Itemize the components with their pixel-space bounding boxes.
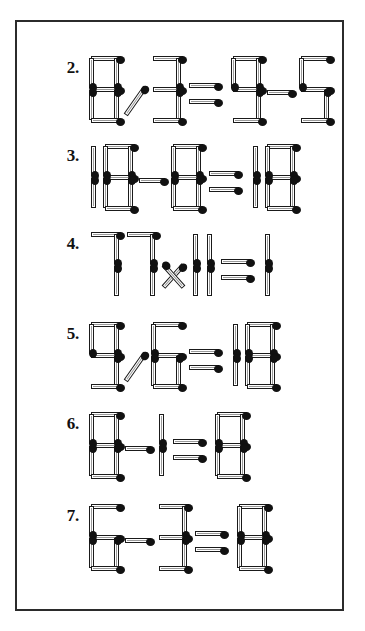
- matchstick-head-icon: [198, 206, 207, 214]
- matchstick-br: [182, 538, 187, 568]
- matchstick-br: [233, 356, 238, 386]
- matchstick-equation: 6-3⇒86 - 3 ⇒ 8: [89, 492, 273, 584]
- matchstick-tl: [215, 414, 220, 444]
- matchstick-head-icon: [139, 84, 151, 96]
- operator-glyph: [187, 56, 227, 121]
- matchstick-br: [262, 538, 267, 568]
- arrow-bar-matchstick: [195, 531, 225, 536]
- matchstick-operator-minus: -: [139, 132, 171, 224]
- matchstick-bottom: [91, 118, 121, 123]
- matchstick-head-icon: [176, 88, 184, 97]
- matchstick-bottom: [239, 566, 269, 571]
- digit-segments: [89, 232, 119, 297]
- matchstick-top: [91, 504, 121, 509]
- matchstick-head-icon: [116, 566, 125, 574]
- matchstick-head-icon: [272, 322, 281, 330]
- matchstick-tl: [89, 506, 94, 536]
- matchstick-bl: [245, 356, 250, 386]
- matchstick-head-icon: [265, 264, 273, 273]
- operator-glyph: [125, 322, 151, 387]
- matchstick-bl: [237, 538, 242, 568]
- digit-segments: [245, 322, 275, 387]
- matchstick-head-icon: [116, 232, 125, 240]
- matchstick-bl: [89, 446, 94, 476]
- digit-value: 8: [89, 44, 90, 45]
- matchstick-head-icon: [89, 88, 97, 97]
- puzzle-number-label: 4.: [45, 234, 79, 254]
- matchstick-operator-minus: -: [125, 492, 157, 584]
- operator-glyph: [187, 322, 227, 387]
- operator-value: ⇒: [207, 132, 208, 133]
- matchstick-br: [176, 90, 181, 120]
- digit-segments: [89, 56, 119, 121]
- digit-value: 8: [89, 400, 90, 401]
- matchstick-head-icon: [176, 354, 184, 363]
- matchstick-top: [153, 56, 183, 61]
- matchstick-tr: [253, 146, 258, 176]
- arrow-bar-matchstick: [189, 349, 219, 354]
- matchstick-digit-1: 1: [263, 220, 277, 312]
- digit-value: 9: [89, 310, 90, 311]
- matchstick-digit-1: 1: [191, 220, 205, 312]
- matchstick-digit-1: 1: [89, 132, 103, 224]
- matchstick-head-icon: [171, 176, 179, 185]
- matchstick-digit-8: 8: [89, 400, 125, 492]
- operator-value: ⇒: [193, 492, 194, 493]
- matchstick-head-icon: [130, 144, 139, 152]
- matchstick-head-icon: [253, 176, 261, 185]
- matchstick-head-icon: [292, 144, 301, 152]
- operator-value: /: [125, 44, 126, 45]
- matchstick-bottom: [267, 206, 297, 211]
- matchstick-head-icon: [177, 261, 189, 273]
- digit-value: 5: [299, 44, 300, 45]
- puzzle-row: 6.8-1⇒88 - 1 ⇒ 8: [17, 400, 342, 492]
- digit-value: 7: [89, 220, 90, 221]
- matchstick-br: [290, 178, 295, 208]
- matchstick-operator-implies: ⇒: [187, 44, 231, 136]
- digit-value: 1: [191, 220, 192, 221]
- equation-text: 9 / 6 ⇒ 18: [281, 310, 282, 311]
- matchstick-tl: [231, 58, 236, 88]
- operator-value: -: [125, 492, 126, 493]
- matchstick-head-icon: [89, 349, 97, 358]
- minus-matchstick: [125, 446, 151, 451]
- matchstick-digit-8: 8: [103, 132, 139, 224]
- matchstick-br: [324, 90, 329, 120]
- matchstick-equation: 77×11⇒177 × 11 ⇒ 1: [89, 220, 277, 312]
- matchstick-br: [196, 178, 201, 208]
- arrow-bar-matchstick: [189, 83, 219, 88]
- operator-glyph: [125, 412, 155, 477]
- digit-segments: [157, 504, 187, 569]
- matchstick-head-icon: [214, 83, 223, 91]
- matchstick-head-icon: [288, 90, 297, 98]
- matchstick-head-icon: [270, 354, 278, 363]
- matchstick-br: [114, 90, 119, 120]
- operator-value: -: [267, 44, 268, 45]
- matchstick-operator-implies: ⇒: [207, 132, 251, 224]
- digit-segments: [89, 322, 119, 387]
- matchstick-head-icon: [184, 566, 193, 574]
- puzzle-row: 4.77×11⇒177 × 11 ⇒ 1: [17, 220, 342, 312]
- matchstick-head-icon: [151, 354, 159, 363]
- matchstick-top: [233, 56, 263, 61]
- matchstick-head-icon: [231, 83, 239, 92]
- operator-value: ⇒: [219, 220, 220, 221]
- matchstick-head-icon: [242, 474, 251, 482]
- matchstick-head-icon: [245, 354, 253, 363]
- matchstick-bottom: [153, 118, 183, 123]
- matchstick-top: [247, 322, 277, 327]
- matchstick-head-icon: [242, 412, 251, 420]
- matchstick-head-icon: [160, 178, 169, 186]
- matchstick-digit-1: 1: [251, 132, 265, 224]
- matchstick-operator-minus: -: [125, 400, 157, 492]
- matchstick-top: [301, 56, 331, 61]
- digit-value: 1: [263, 220, 264, 221]
- matchstick-br: [253, 178, 258, 208]
- operator-glyph: [139, 144, 169, 209]
- matchstick-operator-implies: ⇒: [187, 310, 231, 402]
- matchstick-head-icon: [258, 118, 267, 126]
- matchstick-tl: [171, 146, 176, 176]
- matchstick-digit-7: 7: [125, 220, 161, 312]
- matchstick-head-icon: [103, 176, 111, 185]
- matchstick-bottom: [159, 566, 189, 571]
